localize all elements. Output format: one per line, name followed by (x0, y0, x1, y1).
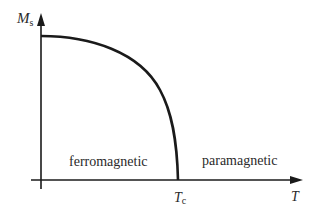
x-axis-label: T (291, 189, 300, 204)
x-axis-arrow-icon (290, 176, 303, 184)
region-label-paramagnetic: paramagnetic (202, 153, 277, 168)
magnetization-diagram: Ms ferromagnetic paramagnetic Tc T (0, 0, 316, 212)
critical-temperature-label: Tc (174, 190, 187, 206)
y-axis-arrow-icon (37, 13, 45, 26)
region-label-ferromagnetic: ferromagnetic (69, 154, 148, 169)
y-axis-label: Ms (16, 10, 34, 28)
